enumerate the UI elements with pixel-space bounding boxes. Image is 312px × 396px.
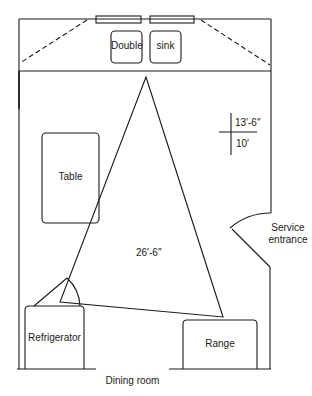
sink-left-label: Double (111, 40, 142, 52)
table-label: Table (42, 171, 99, 183)
refrigerator-label: Refrigerator (22, 332, 87, 344)
work-triangle (60, 77, 223, 317)
service-entrance-label-2: entrance (263, 234, 312, 246)
dimension-width-label: 10′ (236, 138, 249, 150)
window-splay-left (20, 20, 87, 63)
window-splay-right (201, 20, 270, 65)
refrigerator-door-arc (67, 278, 80, 306)
work-triangle-length-label: 26′-6″ (136, 247, 161, 259)
service-entrance-label-1: Service (263, 222, 312, 234)
dimension-length-label: 13′-6″ (235, 117, 260, 129)
sink-right-label: sink (150, 40, 181, 52)
dining-room-label: Dining room (96, 375, 169, 387)
range-label: Range (183, 338, 257, 350)
